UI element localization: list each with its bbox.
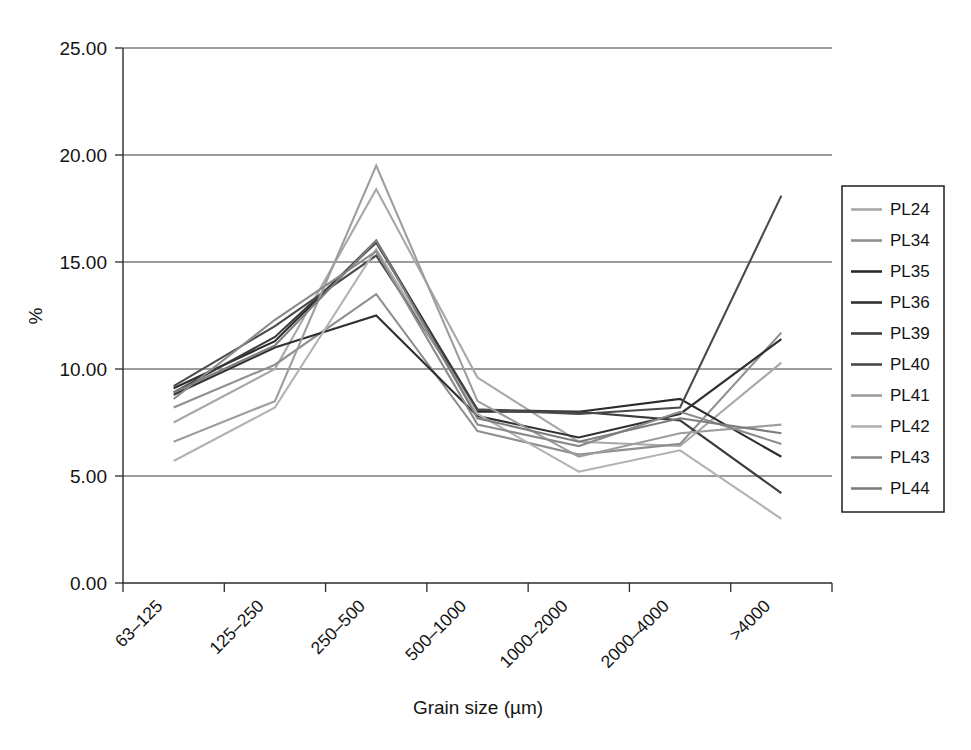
legend-label-pl43[interactable]: PL43 [890, 448, 930, 467]
x-tick-label: 500–1000 [401, 596, 470, 665]
chart-figure: 0.005.0010.0015.0020.0025.00 63–125125–2… [0, 0, 971, 750]
y-axis-title: % [25, 307, 46, 324]
legend-label-pl24[interactable]: PL24 [890, 200, 930, 219]
legend-label-pl44[interactable]: PL44 [890, 479, 930, 498]
y-tick-label: 15.00 [59, 252, 107, 273]
legend-label-pl39[interactable]: PL39 [890, 324, 930, 343]
y-tick-label: 20.00 [59, 145, 107, 166]
x-tick-label: >4000 [725, 596, 774, 645]
y-tick-label: 0.00 [70, 573, 107, 594]
x-tick-label: 63–125 [111, 596, 166, 651]
series-line-pl40 [174, 196, 782, 414]
y-axis-ticks: 0.005.0010.0015.0020.0025.00 [59, 38, 123, 594]
x-tick-label: 125–250 [205, 596, 268, 659]
legend-label-pl36[interactable]: PL36 [890, 293, 930, 312]
legend-label-pl41[interactable]: PL41 [890, 386, 930, 405]
y-tick-label: 25.00 [59, 38, 107, 59]
x-tick-label: 250–500 [307, 596, 370, 659]
legend-label-pl40[interactable]: PL40 [890, 355, 930, 374]
series-lines [174, 166, 782, 519]
y-tick-label: 5.00 [70, 466, 107, 487]
x-axis-title: Grain size (µm) [413, 697, 543, 718]
legend-label-pl34[interactable]: PL34 [890, 231, 930, 250]
x-tick-label: 1000–2000 [496, 596, 572, 672]
legend-label-pl42[interactable]: PL42 [890, 417, 930, 436]
line-chart: 0.005.0010.0015.0020.0025.00 63–125125–2… [0, 0, 971, 750]
y-tick-label: 10.00 [59, 359, 107, 380]
legend-label-pl35[interactable]: PL35 [890, 262, 930, 281]
x-axis-ticks: 63–125125–250250–500500–10001000–2000200… [111, 583, 832, 672]
legend[interactable]: PL24PL34PL35PL36PL39PL40PL41PL42PL43PL44 [842, 186, 944, 512]
x-tick-label: 2000–4000 [597, 596, 673, 672]
